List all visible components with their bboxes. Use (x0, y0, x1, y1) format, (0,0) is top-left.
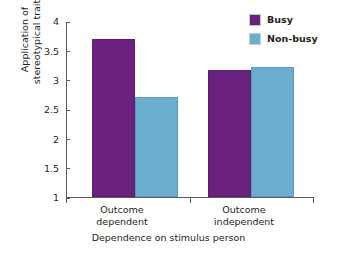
x-group-label-line2: dependent (66, 216, 178, 228)
x-group-label-outcome-dependent: Outcome dependent (66, 204, 178, 227)
bar-outcome-independent-non-busy (251, 67, 294, 197)
y-tick-mark (66, 22, 70, 23)
x-group-label-line2: independent (182, 216, 306, 228)
y-tick-label: 2.5 (44, 105, 66, 115)
y-axis-title-line1: Application of (19, 0, 31, 100)
bar-outcome-dependent-non-busy (135, 97, 178, 197)
y-tick-mark (66, 80, 70, 81)
bar-chart: Busy Non-busy Application of stereotypic… (0, 0, 337, 265)
y-tick-mark (66, 168, 70, 169)
plot-area: 11.522.533.54 (66, 22, 314, 198)
y-tick: 3 (53, 80, 66, 81)
x-tick-mark (66, 198, 67, 203)
y-tick: 4 (53, 22, 66, 23)
y-tick-label: 3 (53, 75, 66, 85)
y-tick: 2.5 (44, 110, 66, 111)
y-tick-label: 4 (53, 17, 66, 27)
x-group-label-line1: Outcome (182, 204, 306, 216)
x-tick-mark (190, 198, 191, 203)
y-tick: 2 (53, 139, 66, 140)
y-tick-mark (66, 110, 70, 111)
y-tick: 1.5 (44, 168, 66, 169)
x-tick-mark (313, 198, 314, 203)
y-tick-label: 3.5 (44, 46, 66, 56)
y-axis-title-line2: stereotypical traits (30, 0, 42, 100)
x-group-label-line1: Outcome (66, 204, 178, 216)
x-axis-title: Dependence on stimulus person (0, 232, 337, 243)
x-group-label-outcome-independent: Outcome independent (182, 204, 306, 227)
y-tick-label: 2 (53, 134, 66, 144)
y-tick: 1 (53, 198, 66, 199)
y-axis-title: Application of stereotypical traits (19, 0, 42, 100)
y-tick-label: 1 (53, 193, 66, 203)
bar-outcome-dependent-busy (92, 39, 135, 197)
y-tick-mark (66, 51, 70, 52)
bar-outcome-independent-busy (208, 70, 251, 197)
y-tick: 3.5 (44, 51, 66, 52)
y-tick-label: 1.5 (44, 163, 66, 173)
y-tick-mark (66, 139, 70, 140)
